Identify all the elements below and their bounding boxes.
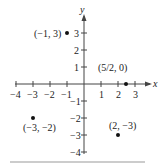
y-tick-label: 3	[74, 28, 79, 39]
y-tick-label: −3	[70, 130, 81, 141]
y-tick-label: −1	[70, 96, 81, 107]
y-tick-label: 2	[74, 45, 79, 56]
y-axis-label: y	[79, 4, 85, 15]
point-label: (5/2, 0)	[98, 62, 127, 74]
data-point	[65, 31, 69, 35]
y-tick-label: 1	[74, 62, 79, 73]
x-tick-label: −3	[27, 89, 38, 100]
y-tick-label: −2	[70, 113, 81, 124]
data-point	[124, 82, 128, 86]
point-label: (−3, −2)	[23, 122, 56, 134]
y-axis-arrow-icon	[82, 14, 87, 21]
coordinate-plane: x y −4 −3 −2 −1 1 2 3 3 2 1 −1 −2 −3 −4 …	[0, 0, 163, 164]
y-tick-label: −4	[70, 147, 81, 158]
x-tick-label: −2	[44, 89, 55, 100]
x-tick-label: 1	[99, 89, 104, 100]
x-tick-label: −4	[10, 89, 21, 100]
data-point	[116, 133, 120, 137]
x-axis-label: x	[152, 78, 158, 89]
x-tick-label: 2	[116, 89, 121, 100]
point-label: (2, −3)	[109, 120, 136, 132]
data-point	[31, 116, 35, 120]
point-label: (−1, 3)	[34, 28, 61, 40]
x-tick-label: 3	[133, 89, 138, 100]
x-axis-arrow-icon	[145, 82, 152, 87]
